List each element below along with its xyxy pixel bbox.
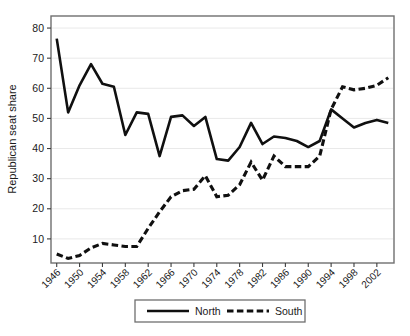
y-axis-label: Republican seat share: [6, 84, 18, 193]
chart-figure: 1020304050607080 19461950195419581962196…: [0, 0, 410, 336]
x-tick-label: 1954: [85, 266, 109, 290]
x-tick-label: 1990: [291, 266, 315, 290]
x-tick-label: 1982: [245, 266, 269, 290]
x-tick-label: 1966: [153, 266, 177, 290]
gridlines: [52, 28, 393, 239]
x-tick-label: 1962: [131, 266, 155, 290]
republican-seat-share-line-chart: 1020304050607080 19461950195419581962196…: [0, 0, 410, 336]
y-tick-label: 20: [32, 202, 44, 214]
x-axis-ticks: 1946195019541958196219661970197419781982…: [39, 263, 383, 290]
y-tick-label: 70: [32, 52, 44, 64]
x-tick-label: 1998: [336, 266, 360, 290]
x-tick-label: 1958: [108, 266, 132, 290]
x-tick-label: 1978: [222, 266, 246, 290]
y-tick-label: 50: [32, 112, 44, 124]
y-tick-label: 60: [32, 82, 44, 94]
y-tick-label: 10: [32, 233, 44, 245]
x-tick-label: 1950: [62, 266, 86, 290]
x-tick-label: 1970: [176, 266, 200, 290]
series-line-south: [57, 78, 389, 259]
y-axis-ticks: 1020304050607080: [32, 22, 51, 245]
y-tick-label: 80: [32, 22, 44, 34]
x-tick-label: 1946: [39, 266, 63, 290]
y-tick-label: 40: [32, 142, 44, 154]
y-tick-label: 30: [32, 172, 44, 184]
x-tick-label: 2002: [359, 266, 383, 290]
x-tick-label: 1994: [314, 266, 338, 290]
series-line-north: [57, 39, 389, 161]
chart-legend: NorthSouth: [135, 300, 305, 322]
x-tick-label: 1986: [268, 266, 292, 290]
legend-label-north: North: [195, 305, 221, 317]
x-tick-label: 1974: [199, 266, 223, 290]
legend-label-south: South: [275, 305, 303, 317]
plot-frame: [51, 16, 394, 263]
